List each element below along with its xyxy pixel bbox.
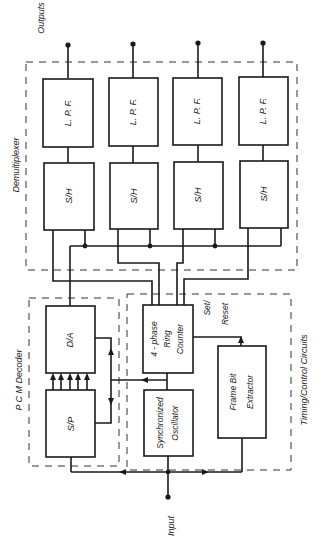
input-terminal: [165, 494, 170, 499]
arrow-up-icon: [108, 348, 114, 355]
arrow-up-icon: [58, 373, 64, 380]
sh-block-1: S/H: [44, 163, 94, 230]
ring-counter-label-3: Counter: [175, 323, 185, 354]
pcm-decoder-label: P C M Decoder: [14, 348, 24, 410]
sh-label: S/H: [129, 188, 139, 204]
lpf-label: L. P. F.: [192, 98, 202, 125]
da-label: D/A: [65, 332, 75, 347]
outputs-label: Outputs: [36, 2, 46, 34]
lpf-label: L. P. F.: [258, 98, 268, 125]
sh-label: S/H: [64, 188, 74, 204]
sh-block-3: S/H: [174, 162, 223, 229]
set-reset-line: Set/ Reset: [193, 299, 244, 346]
junction-dot: [83, 244, 88, 249]
junction-dot: [166, 470, 171, 475]
lpf-label: L. P. F.: [128, 99, 138, 126]
lpf-block-1: L. P. F.: [43, 79, 93, 147]
sp-block: S/P: [46, 390, 95, 457]
ring-counter-label-1: 4 - phase: [149, 321, 159, 357]
timing-control-label: Timing/Control Circuits: [299, 334, 309, 425]
ring-counter-block: 4 - phase Ring Counter: [143, 305, 193, 373]
set-label: Set/: [202, 299, 212, 316]
input-label: Input: [166, 515, 176, 536]
sh-block-2: S/H: [110, 163, 158, 229]
sh-label: S/H: [259, 186, 269, 202]
output-terminal-2: [130, 41, 135, 46]
sh-block-4: S/H: [240, 161, 288, 228]
sh-label: S/H: [193, 187, 203, 203]
output-terminals: [65, 40, 265, 78]
arrow-up-icon: [84, 373, 90, 380]
arrow-up-icon: [50, 373, 56, 380]
frame-bit-label-1: Frame Bit: [228, 373, 238, 410]
frame-bit-label-2: Extractor: [245, 374, 255, 409]
output-terminal-1: [65, 42, 70, 47]
reset-label: Reset: [220, 302, 230, 325]
lpf-block-2: L. P. F.: [109, 78, 158, 146]
sp-label: S/P: [66, 417, 76, 432]
parallel-data-arrows: [50, 373, 90, 390]
demultiplexer-label: Demultiplexer: [11, 136, 21, 192]
arrow-left-icon: [119, 469, 126, 475]
da-block: D/A: [46, 306, 95, 373]
sync-osc-label-2: Oscillator: [170, 404, 180, 441]
arrow-left-icon: [141, 377, 148, 383]
lpf-block-4: L. P. F.: [239, 77, 288, 145]
output-terminal-3: [195, 40, 200, 45]
lpf-label: L. P. F.: [63, 100, 73, 127]
pcm-receiver-diagram: L. P. F. L. P. F. L. P. F. L. P. F. S/H …: [0, 0, 319, 542]
junction-dot: [148, 244, 153, 249]
lpf-sh-links: [68, 145, 263, 163]
arrow-up-icon: [75, 373, 81, 380]
ring-counter-label-2: Ring: [162, 330, 172, 348]
arrow-right-icon: [202, 469, 209, 475]
junction-dot: [213, 244, 218, 249]
arrow-up-icon: [67, 373, 73, 380]
arrow-down-icon: [108, 398, 114, 405]
frame-bit-extractor-block: Frame Bit Extractor: [218, 346, 266, 438]
sync-osc-label-1: Synchronized: [155, 397, 165, 449]
sync-oscillator-block: Synchronized Oscillator: [144, 390, 193, 456]
output-terminal-4: [260, 40, 265, 45]
lpf-block-3: L. P. F.: [173, 78, 222, 145]
